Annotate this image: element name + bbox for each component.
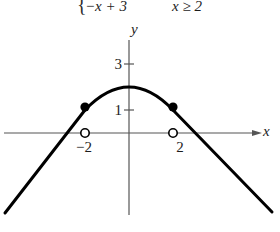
graph-screenshot: { −x + 3 x ≥ 2 y x 3 1 (0, 0, 280, 232)
y-axis-label: y (131, 22, 138, 37)
function-graph (0, 0, 280, 232)
filled-dot-right (168, 102, 177, 111)
open-circle-left (81, 129, 89, 137)
x-axis (4, 130, 262, 136)
x-tick-label-neg2: −2 (71, 140, 97, 155)
y-tick-label-1: 1 (108, 103, 122, 118)
left-ray (5, 110, 85, 213)
x-tick-label-2: 2 (167, 140, 193, 155)
filled-dot-left (80, 102, 89, 111)
right-ray (173, 110, 272, 212)
x-axis-label: x (263, 124, 270, 139)
y-tick-label-3: 3 (108, 57, 122, 72)
open-circle-right (169, 129, 177, 137)
